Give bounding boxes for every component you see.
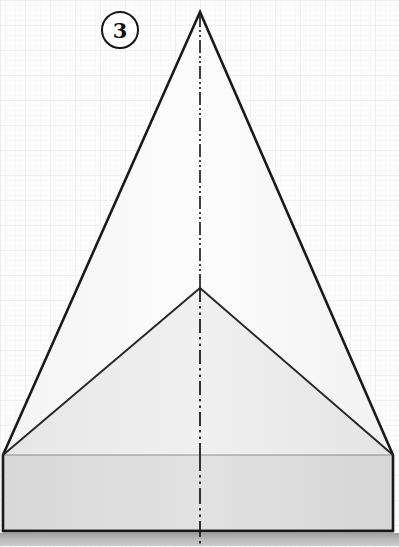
step-number-badge: 3 xyxy=(101,11,139,49)
panel-base-right xyxy=(200,455,393,531)
fold-diagram-figure: 3 xyxy=(0,0,399,547)
step-number-label: 3 xyxy=(113,20,128,41)
fold-diagram-drawing xyxy=(0,0,399,547)
panel-base-left xyxy=(3,455,200,531)
